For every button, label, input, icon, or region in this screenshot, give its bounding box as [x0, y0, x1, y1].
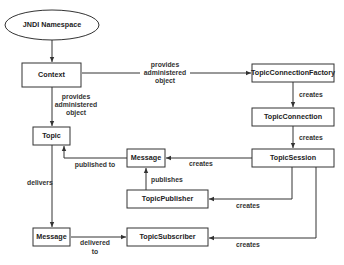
- node-label: JNDI Namespace: [23, 20, 81, 29]
- node-label: TopicConnection: [264, 112, 322, 121]
- label-factory-to-connection: creates: [299, 91, 323, 98]
- label-context-to-topic: provides administered object: [55, 93, 97, 117]
- edge-label-line: administered: [55, 101, 97, 108]
- edge-session-to-subscriber: [209, 167, 316, 238]
- label-context-to-factory: provides administered object: [144, 61, 186, 85]
- node-message-delivered: Message: [33, 228, 70, 246]
- edge-label-line: provides: [62, 93, 91, 101]
- label-connection-to-session: creates: [299, 134, 323, 141]
- node-label: TopicSubscriber: [139, 232, 195, 241]
- node-label: Message: [36, 232, 66, 241]
- edge-label-line: object: [155, 77, 176, 85]
- label-message-to-topic: published to: [75, 161, 115, 169]
- node-context: Context: [22, 63, 81, 87]
- node-topic-session: TopicSession: [252, 149, 334, 167]
- label-session-to-message: creates: [189, 160, 213, 167]
- label-session-to-publisher: creates: [236, 202, 260, 209]
- edge-label-line: provides: [151, 61, 180, 69]
- label-publisher-to-message: publishes: [151, 176, 183, 184]
- edge-label-line: to: [92, 248, 98, 255]
- edge-label-line: delivered: [80, 239, 110, 246]
- edge-message-to-topic: [64, 146, 127, 158]
- node-label: TopicSession: [270, 153, 316, 162]
- node-topic-connection-factory: TopicConnectionFactory: [251, 64, 335, 82]
- node-topic-connection: TopicConnection: [252, 108, 334, 126]
- edge-session-to-publisher: [209, 167, 292, 199]
- node-message-published: Message: [127, 149, 165, 167]
- jms-topic-diagram: JNDI Namespace Context Topic TopicConnec…: [0, 0, 344, 265]
- edge-label-line: administered: [144, 69, 186, 76]
- label-session-to-subscriber: creates: [236, 241, 260, 248]
- node-topic: Topic: [33, 127, 70, 145]
- node-label: Topic: [42, 131, 61, 140]
- label-topic-to-message: delivers: [27, 179, 53, 186]
- node-jndi-namespace: JNDI Namespace: [5, 10, 99, 40]
- edge-label-line: object: [66, 109, 87, 117]
- node-label: TopicPublisher: [142, 194, 194, 203]
- node-label: Message: [131, 153, 161, 162]
- label-message-to-subscriber: delivered to: [80, 239, 110, 255]
- node-topic-subscriber: TopicSubscriber: [127, 228, 208, 246]
- node-topic-publisher: TopicPublisher: [127, 190, 208, 208]
- node-label: TopicConnectionFactory: [251, 68, 335, 77]
- node-label: Context: [38, 70, 65, 79]
